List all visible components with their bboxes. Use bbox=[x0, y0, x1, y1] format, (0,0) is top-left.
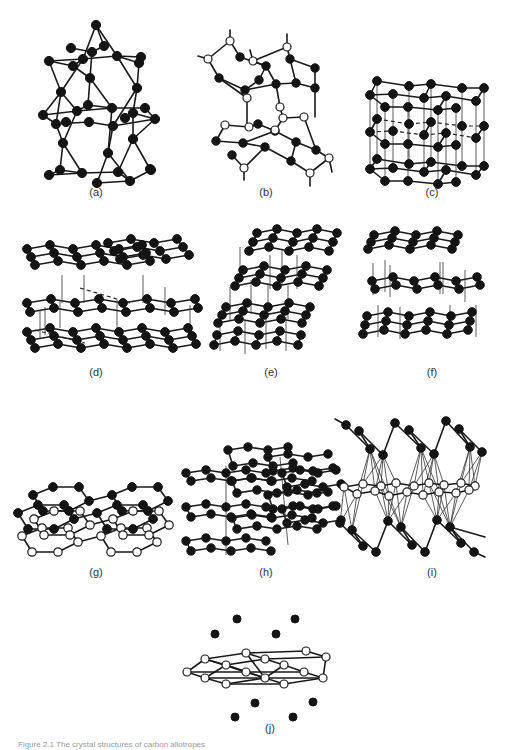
atom-filled bbox=[91, 20, 100, 29]
atom-filled bbox=[311, 84, 319, 92]
atom-filled bbox=[207, 544, 215, 552]
atom-filled bbox=[273, 225, 282, 234]
atom-open bbox=[74, 538, 82, 546]
atom-filled bbox=[293, 486, 301, 494]
atom-open bbox=[280, 680, 288, 688]
atom-filled bbox=[83, 100, 92, 109]
atom-open bbox=[322, 653, 330, 661]
atom-filled bbox=[169, 344, 178, 353]
atom-filled bbox=[312, 146, 320, 154]
atom-filled bbox=[139, 251, 148, 260]
atom-filled bbox=[69, 328, 78, 337]
bond bbox=[43, 111, 77, 115]
atom-filled bbox=[116, 255, 125, 264]
atom-filled bbox=[191, 295, 200, 304]
atom-open bbox=[222, 680, 230, 688]
atom-filled bbox=[366, 445, 375, 454]
atom-filled bbox=[78, 54, 87, 63]
atom-filled bbox=[215, 74, 223, 82]
structure-a bbox=[0, 0, 170, 205]
atom-open bbox=[359, 480, 367, 488]
atom-filled bbox=[161, 328, 170, 337]
atom-filled bbox=[185, 251, 194, 260]
atom-filled bbox=[458, 162, 467, 171]
atom-filled bbox=[269, 234, 278, 243]
panel-f: (f) bbox=[340, 225, 505, 385]
atom-filled bbox=[443, 330, 452, 339]
panel-label-d: (d) bbox=[89, 366, 102, 378]
atom-filled bbox=[298, 319, 307, 328]
atom-filled bbox=[49, 483, 58, 492]
atom-filled bbox=[273, 282, 282, 291]
atom-filled bbox=[165, 336, 174, 345]
atom-open bbox=[302, 647, 310, 655]
atom-filled bbox=[27, 253, 36, 262]
atom-filled bbox=[46, 324, 55, 333]
atom-filled bbox=[287, 157, 295, 165]
atom-filled bbox=[359, 330, 368, 339]
atom-open bbox=[435, 488, 443, 496]
atom-open bbox=[183, 668, 191, 676]
atom-open bbox=[30, 515, 38, 523]
atom-filled bbox=[38, 110, 47, 119]
atom-filled bbox=[472, 97, 481, 106]
atom-filled bbox=[405, 426, 414, 435]
atom-filled bbox=[113, 167, 122, 176]
bond bbox=[133, 139, 150, 169]
atom-filled bbox=[472, 134, 481, 143]
atom-filled bbox=[202, 534, 210, 542]
atom-filled bbox=[228, 151, 236, 159]
atom-filled bbox=[233, 525, 241, 533]
atom-filled bbox=[239, 266, 248, 275]
atom-filled bbox=[466, 317, 475, 326]
atom-filled bbox=[100, 340, 109, 349]
atom-filled bbox=[363, 312, 372, 321]
atom-filled bbox=[77, 344, 86, 353]
bond bbox=[90, 78, 112, 108]
bond bbox=[434, 421, 446, 454]
atom-filled bbox=[245, 247, 254, 256]
atom-filled bbox=[379, 451, 388, 460]
atom-filled bbox=[253, 522, 261, 530]
atom-filled bbox=[373, 77, 382, 86]
atom-filled bbox=[420, 94, 429, 103]
atom-filled bbox=[260, 262, 269, 271]
atom-filled bbox=[273, 525, 281, 533]
atom-filled bbox=[50, 332, 59, 341]
atom-filled bbox=[480, 162, 489, 171]
atom-filled bbox=[305, 243, 314, 252]
atom-filled bbox=[381, 177, 390, 186]
atom-filled bbox=[373, 155, 382, 164]
bond bbox=[284, 678, 323, 684]
atom-filled bbox=[381, 140, 390, 149]
atom-filled bbox=[211, 630, 219, 638]
atom-filled bbox=[188, 332, 197, 341]
atom-filled bbox=[51, 119, 60, 128]
panel-label-g: (g) bbox=[89, 566, 102, 578]
atom-filled bbox=[447, 312, 456, 321]
panel-g: (g) bbox=[0, 425, 170, 600]
atom-open bbox=[245, 123, 253, 131]
atom-filled bbox=[244, 443, 252, 451]
atom-filled bbox=[306, 303, 315, 312]
atom-filled bbox=[384, 517, 393, 526]
atom-filled bbox=[29, 491, 38, 500]
atom-filled bbox=[75, 483, 84, 492]
atom-filled bbox=[410, 277, 419, 286]
atom-filled bbox=[179, 243, 188, 252]
atom-filled bbox=[265, 243, 274, 252]
atom-open bbox=[276, 103, 284, 111]
bond bbox=[226, 678, 265, 684]
structure-j bbox=[160, 600, 350, 740]
atom-filled bbox=[262, 62, 270, 70]
atom-filled bbox=[426, 308, 435, 317]
atom-filled bbox=[397, 523, 406, 532]
atom-filled bbox=[278, 505, 286, 513]
atom-filled bbox=[31, 261, 40, 270]
atom-filled bbox=[54, 257, 63, 266]
atom-filled bbox=[276, 327, 285, 336]
atom-filled bbox=[442, 92, 451, 101]
atom-filled bbox=[342, 421, 351, 430]
atom-filled bbox=[239, 307, 248, 316]
atom-filled bbox=[212, 137, 220, 145]
